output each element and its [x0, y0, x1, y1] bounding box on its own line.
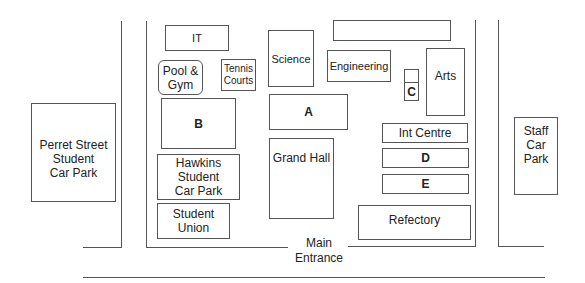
- road-right-outer: [498, 20, 499, 247]
- building-pool-gym: Pool & Gym: [158, 60, 203, 95]
- road-left-outer-bottom: [83, 247, 122, 248]
- building-refectory: Refectory: [358, 205, 471, 240]
- road-left-outer: [121, 21, 122, 248]
- building-a: A: [269, 94, 348, 130]
- building-hawkins-student-car-park: Hawkins Student Car Park: [157, 154, 240, 200]
- building-int-centre: Int Centre: [382, 123, 468, 143]
- road-right-outer-bottom: [498, 246, 544, 247]
- campus-boundary-right: [475, 20, 476, 247]
- building-unnamed-top: [333, 20, 451, 41]
- campus-boundary-bottom-left: [146, 247, 288, 248]
- campus-boundary-left: [146, 21, 147, 248]
- building-student-union: Student Union: [157, 203, 230, 239]
- building-engineering: Engineering: [327, 50, 391, 82]
- building-c-annex: [404, 69, 419, 83]
- campus-boundary-bottom-right: [348, 246, 476, 247]
- building-science: Science: [268, 30, 314, 87]
- building-e: E: [382, 174, 469, 194]
- building-c: C: [404, 82, 419, 101]
- building-grand-hall: Grand Hall: [269, 138, 334, 219]
- building-it: IT: [165, 25, 229, 51]
- building-staff-car-park: Staff Car Park: [514, 117, 558, 195]
- building-b: B: [161, 98, 236, 149]
- building-arts: Arts: [426, 48, 465, 116]
- building-perret-street-student-car-park: Perret Street Student Car Park: [31, 103, 116, 202]
- building-tennis-courts: Tennis Courts: [221, 59, 256, 91]
- main-entrance-label: Main Entrance: [290, 236, 348, 266]
- main-road: [83, 277, 545, 278]
- building-d: D: [382, 148, 469, 168]
